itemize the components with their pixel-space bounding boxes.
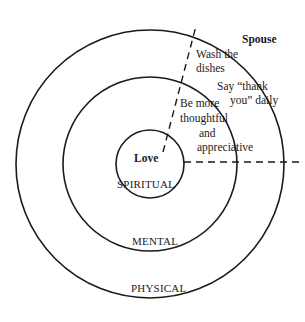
dashed-sector-line-diagonal [163,26,196,152]
love-label: Love [134,152,158,165]
mental-text-line-1: Be more [180,97,219,110]
wash-dishes-line-1: Wash the [196,48,238,61]
mental-text-line-4: appreciative [197,141,253,154]
mental-label: MENTAL [132,235,178,248]
spiritual-label: SPIRITUAL [117,178,175,191]
spouse-label: Spouse [242,33,277,46]
mental-text-line-3: and [199,127,216,140]
say-thank-you-line-2: you” daily [230,94,278,107]
say-thank-you-line-1: Say “thank [217,80,268,93]
wash-dishes-line-2: dishes [196,62,225,75]
physical-label: PHYSICAL [131,282,186,295]
mental-text-line-2: thoughtful [180,112,228,125]
